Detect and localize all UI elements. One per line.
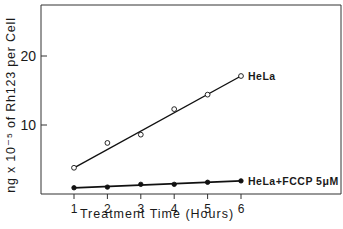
fit-line — [74, 76, 241, 168]
x-tick-label: 1 — [71, 202, 78, 216]
y-tick-label: 10 — [20, 117, 36, 133]
open-circle-marker — [72, 165, 77, 170]
filled-circle-marker — [239, 179, 243, 183]
y-tick-label: 20 — [20, 48, 36, 64]
y-axis-ticks: 1020 — [20, 48, 47, 133]
series-label: HeLa — [248, 70, 276, 82]
open-circle-marker — [138, 132, 143, 137]
filled-circle-marker — [205, 180, 209, 184]
plot-frame — [41, 5, 341, 194]
series-label: HeLa+FCCP 5μM — [248, 175, 339, 187]
data-series: HeLaHeLa+FCCP 5μM — [72, 70, 339, 190]
x-axis-label: Treatment Time (Hours) — [80, 207, 234, 221]
filled-circle-marker — [139, 182, 143, 186]
fit-line — [74, 181, 241, 188]
filled-circle-marker — [72, 186, 76, 190]
open-circle-marker — [239, 74, 244, 79]
x-tick-label: 6 — [238, 202, 245, 216]
open-circle-marker — [205, 92, 210, 97]
line-chart: 1020 123456 HeLaHeLa+FCCP 5μM — [0, 0, 343, 229]
filled-circle-marker — [105, 185, 109, 189]
series-hela: HeLa — [72, 70, 276, 170]
series-hela-fccp: HeLa+FCCP 5μM — [72, 175, 339, 190]
open-circle-marker — [172, 107, 177, 112]
filled-circle-marker — [172, 182, 176, 186]
open-circle-marker — [105, 141, 110, 146]
y-axis-label: ng x 10⁻⁵ of Rh123 per Cell — [3, 17, 18, 193]
